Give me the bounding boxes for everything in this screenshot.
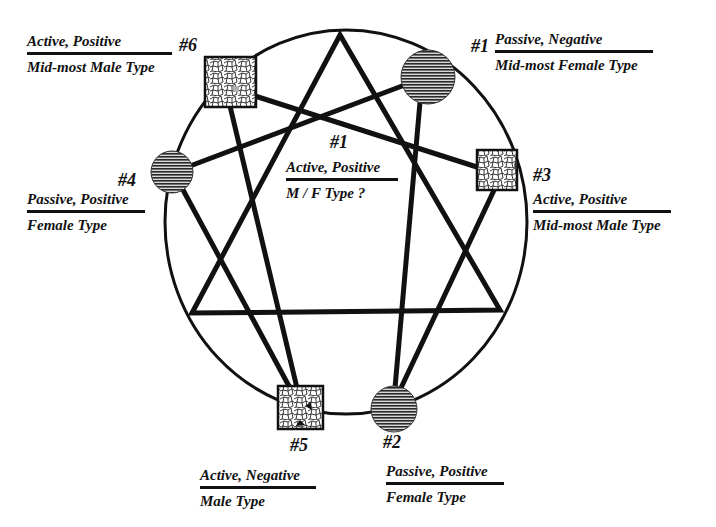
label-4-line2: Female Type (27, 213, 145, 234)
connection-lines (182, 83, 496, 390)
number-node-3: #3 (533, 165, 551, 186)
node-3 (477, 150, 517, 190)
label-1-line2: Mid-most Female Type (495, 53, 653, 74)
node-4 (151, 151, 193, 193)
number-node-1-outer: #1 (471, 36, 489, 57)
number-node-6: #6 (179, 35, 197, 56)
number-node-2: #2 (383, 432, 401, 453)
number-node-4: #4 (118, 170, 136, 191)
diagram-canvas (0, 0, 716, 527)
label-center: Active, Positive M / F Type ? (286, 158, 398, 202)
label-3-line2: Mid-most Male Type (533, 213, 671, 234)
label-4-line1: Passive, Positive (27, 190, 145, 213)
node-2 (371, 386, 417, 432)
label-node-3: Active, Positive Mid-most Male Type (533, 190, 671, 234)
node-5 (278, 386, 323, 429)
label-5-line1: Active, Negative (200, 466, 316, 489)
label-node-6: Active, Positive Mid-most Male Type (27, 32, 172, 76)
node-1-outer (401, 50, 455, 104)
label-node-2: Passive, Positive Female Type (386, 462, 504, 506)
number-center: #1 (330, 132, 348, 153)
label-node-4: Passive, Positive Female Type (27, 190, 145, 234)
label-2-line2: Female Type (386, 485, 504, 506)
node-6 (205, 57, 256, 107)
label-3-line1: Active, Positive (533, 190, 671, 213)
label-5-line2: Male Type (200, 489, 316, 510)
number-node-5: #5 (290, 435, 308, 456)
label-1-line1: Passive, Negative (495, 30, 653, 53)
label-6-line1: Active, Positive (27, 32, 172, 55)
label-node-5: Active, Negative Male Type (200, 466, 316, 510)
center-line1: Active, Positive (286, 158, 398, 181)
center-line2: M / F Type ? (286, 181, 398, 202)
label-6-line2: Mid-most Male Type (27, 55, 172, 76)
label-2-line1: Passive, Positive (386, 462, 504, 485)
label-node-1-outer: Passive, Negative Mid-most Female Type (495, 30, 653, 74)
